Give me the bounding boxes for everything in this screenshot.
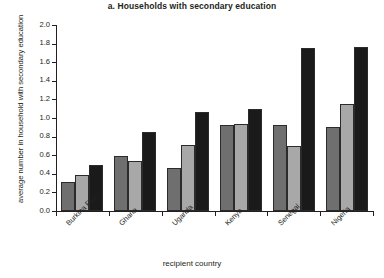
bar[interactable] (301, 48, 315, 211)
y-tick-label: 0.0 (39, 206, 50, 215)
y-tick-label: 2.0 (39, 20, 50, 29)
y-tick-label: 0.8 (39, 131, 50, 140)
x-tick-mark (373, 211, 374, 216)
bar[interactable] (114, 156, 128, 211)
bar[interactable] (195, 112, 209, 212)
bar[interactable] (167, 168, 181, 211)
y-tick-mark (52, 99, 56, 100)
bar[interactable] (128, 161, 142, 211)
y-tick-label: 1.6 (39, 57, 50, 66)
x-tick-mark (56, 211, 57, 216)
bar[interactable] (220, 125, 234, 211)
y-tick-label: 0.2 (39, 187, 50, 196)
bar[interactable] (273, 125, 287, 211)
bar[interactable] (354, 47, 368, 211)
y-axis-title: average number in household with seconda… (16, 14, 26, 204)
y-axis-line (56, 25, 57, 212)
bar[interactable] (287, 146, 301, 211)
y-tick-label: 1.4 (39, 75, 50, 84)
bar-chart: a. Households with secondary education a… (0, 0, 384, 278)
bar[interactable] (234, 124, 248, 211)
y-tick-mark (52, 81, 56, 82)
x-tick-mark (215, 211, 216, 216)
y-tick-label: 1.0 (39, 113, 50, 122)
bar-group (167, 25, 209, 211)
y-tick-mark (52, 62, 56, 63)
y-tick-mark (52, 44, 56, 45)
y-tick-mark (52, 174, 56, 175)
chart-title: a. Households with secondary education (0, 1, 384, 11)
bar[interactable] (326, 127, 340, 211)
y-tick-label: 1.2 (39, 94, 50, 103)
y-tick-mark (52, 155, 56, 156)
bar-group (220, 25, 262, 211)
x-tick-mark (162, 211, 163, 216)
bar-group (326, 25, 368, 211)
y-tick-mark (52, 192, 56, 193)
plot-area: 0.00.20.40.60.81.01.21.41.61.82.0 Burkin… (56, 25, 373, 212)
y-tick-mark (52, 25, 56, 26)
y-tick-label: 1.8 (39, 38, 50, 47)
y-tick-mark (52, 137, 56, 138)
bar[interactable] (340, 104, 354, 211)
x-tick-mark (267, 211, 268, 216)
bar-group (114, 25, 156, 211)
bar[interactable] (181, 145, 195, 211)
x-tick-mark (109, 211, 110, 216)
x-axis-title: recipient country (0, 259, 384, 268)
bar-group (273, 25, 315, 211)
y-tick-label: 0.4 (39, 168, 50, 177)
bar[interactable] (248, 109, 262, 211)
y-tick-mark (52, 118, 56, 119)
bar-group (61, 25, 103, 211)
bar[interactable] (142, 132, 156, 211)
y-tick-label: 0.6 (39, 150, 50, 159)
x-tick-mark (320, 211, 321, 216)
bar[interactable] (61, 182, 75, 211)
